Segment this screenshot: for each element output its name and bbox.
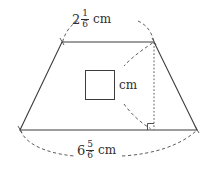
top-base-unit: cm <box>93 13 111 25</box>
top-base-fraction: 1 6 <box>81 9 89 29</box>
bottom-base-unit: cm <box>98 144 116 156</box>
top-measure-arc-right <box>138 21 154 42</box>
height-unit: cm <box>119 79 137 91</box>
bottom-base-denominator: 6 <box>86 151 94 161</box>
bottom-base-whole: 6 <box>77 144 85 157</box>
bottom-base-numerator: 5 <box>86 140 94 150</box>
right-angle-marker <box>148 124 155 131</box>
top-base-whole: 2 <box>72 13 80 26</box>
height-leader-arc-upper <box>124 43 153 66</box>
bottom-measure-arc-left <box>21 131 75 157</box>
top-base-denominator: 6 <box>81 20 89 30</box>
bottom-base-fraction: 5 6 <box>86 140 94 160</box>
top-base-numerator: 1 <box>81 9 89 19</box>
height-label: cm <box>85 70 137 100</box>
top-base-label: 2 1 6 cm <box>72 9 111 29</box>
height-answer-box[interactable] <box>85 70 115 100</box>
height-leader-arc-lower <box>124 104 151 129</box>
bottom-measure-arc-right <box>122 131 197 157</box>
trapezoid-figure: 2 1 6 cm 6 5 6 cm cm <box>0 0 210 173</box>
bottom-base-label: 6 5 6 cm <box>77 140 116 160</box>
